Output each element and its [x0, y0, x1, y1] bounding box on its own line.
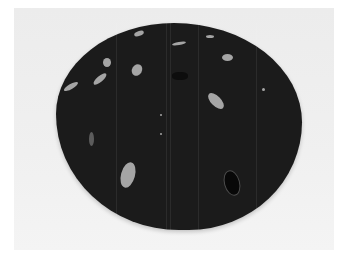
speck	[160, 114, 162, 116]
inclusion	[222, 54, 233, 61]
speck	[160, 133, 162, 135]
inclusion	[262, 88, 265, 91]
scan-line	[116, 23, 117, 230]
dark-spot	[172, 72, 188, 80]
scan-line	[256, 23, 257, 230]
scan-line	[198, 23, 199, 230]
inclusion	[206, 35, 214, 38]
scan-line	[170, 23, 171, 230]
inclusion	[103, 58, 111, 67]
inclusion	[89, 132, 94, 146]
scan-line	[166, 23, 167, 230]
